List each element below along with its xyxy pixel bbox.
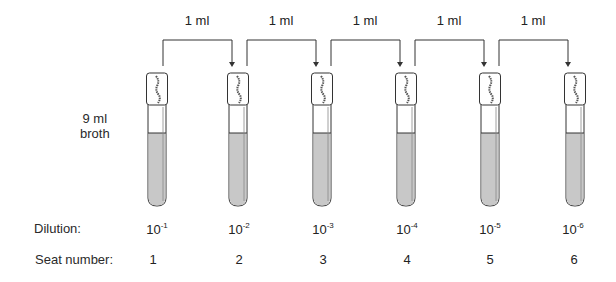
seat-number-6: 6 [564,252,584,267]
seat-row-label: Seat number: [35,252,113,267]
seat-number-5: 5 [480,252,500,267]
dilution-row-label: Dilution: [34,221,81,236]
dilution-3: 10-3 [303,221,343,237]
dilution-5: 10-5 [470,221,510,237]
test-tube-5 [480,73,501,206]
dilution-4: 10-4 [387,221,427,237]
transfer-arrows [163,40,571,67]
test-tube-2 [228,73,249,206]
broth-label: 9 ml broth [80,111,110,141]
seat-number-2: 2 [229,252,249,267]
broth-volume: 9 ml [80,111,110,126]
transfer-arrow-3 [331,40,403,67]
broth-text: broth [80,126,110,141]
transfer-label-3: 1 ml [340,13,390,28]
transfer-arrow-4 [415,40,487,67]
test-tube-1 [147,73,168,206]
transfer-arrow-2 [247,40,319,67]
diagram-graphics [0,0,616,282]
transfer-arrow-1 [163,40,235,67]
seat-number-4: 4 [397,252,417,267]
test-tube-6 [565,73,586,206]
transfer-arrow-5 [499,40,571,67]
test-tube-3 [312,73,333,206]
transfer-label-2: 1 ml [256,13,306,28]
dilution-2: 10-2 [219,221,259,237]
transfer-label-1: 1 ml [172,13,222,28]
seat-number-3: 3 [313,252,333,267]
dilution-1: 10-1 [137,221,177,237]
transfer-label-4: 1 ml [424,13,474,28]
seat-number-1: 1 [143,252,163,267]
test-tubes [147,73,586,206]
test-tube-4 [396,73,417,206]
transfer-label-5: 1 ml [508,13,558,28]
dilution-6: 10-6 [553,221,593,237]
